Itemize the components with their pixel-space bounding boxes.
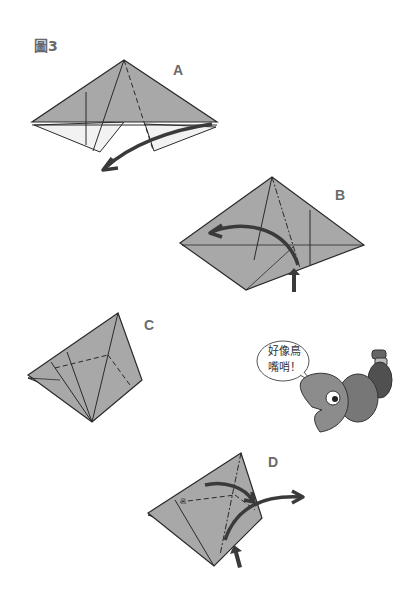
speech-line-1: 好像鳥 [261,344,307,360]
speech-line-2: 嘴哨！ [261,360,307,376]
fold-point-label-a: a [180,494,186,506]
step-c-diagram [28,313,142,422]
step-d-diagram [148,453,303,568]
step-a-diagram [32,60,217,170]
origami-diagrams [0,0,414,613]
step-b-diagram [180,177,364,292]
speech-bubble: 好像鳥 嘴哨！ [261,344,307,376]
